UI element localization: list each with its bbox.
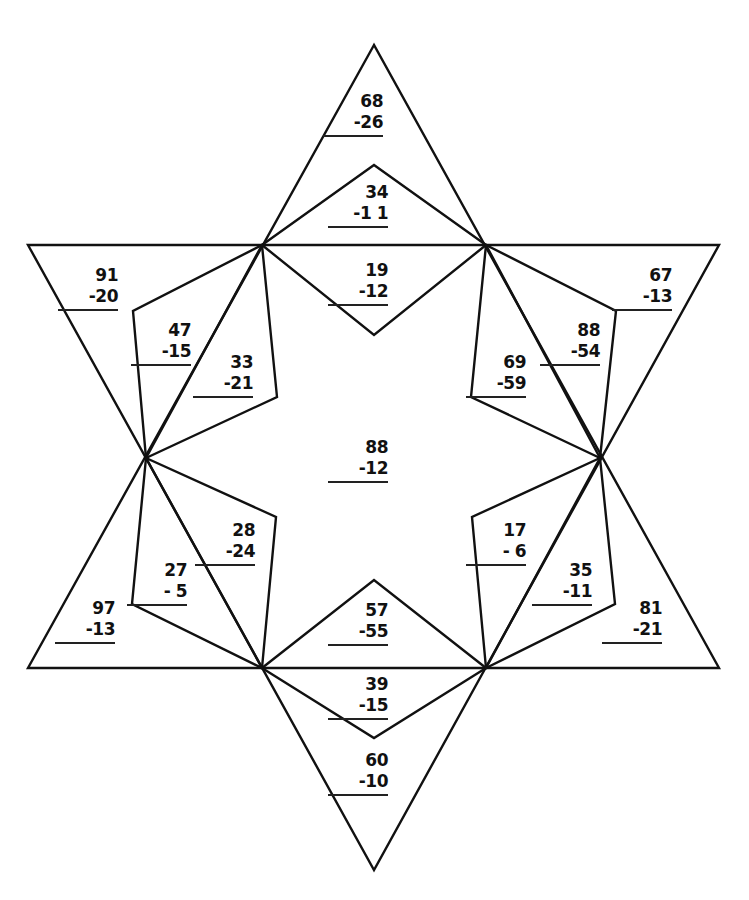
minuend: 34	[328, 182, 388, 203]
problem-lower-left-kite-outer: 27 - 5	[127, 560, 187, 606]
minuend: 81	[602, 598, 662, 619]
problem-center: 88 -12	[328, 437, 388, 483]
subtrahend: -12	[328, 281, 388, 306]
subtrahend: -21	[193, 373, 253, 398]
subtrahend: -59	[466, 373, 526, 398]
problem-bottom-kite-upper: 57 -55	[328, 600, 388, 646]
minuend: 17	[466, 520, 526, 541]
subtrahend: -10	[328, 771, 388, 796]
problem-top-kite-lower: 19 -12	[328, 260, 388, 306]
minuend: 57	[328, 600, 388, 621]
minuend: 67	[612, 265, 672, 286]
problem-upper-right-kite-outer: 88 -54	[540, 320, 600, 366]
minuend: 28	[195, 520, 255, 541]
problem-bottom-kite-lower: 39 -15	[328, 674, 388, 720]
minuend: 88	[328, 437, 388, 458]
minuend: 69	[466, 352, 526, 373]
minuend: 39	[328, 674, 388, 695]
minuend: 68	[323, 91, 383, 112]
problem-lower-left-kite-inner: 28 -24	[195, 520, 255, 566]
subtrahend: - 6	[466, 541, 526, 566]
problem-lower-right-tip: 81 -21	[602, 598, 662, 644]
minuend: 60	[328, 750, 388, 771]
subtrahend: -15	[131, 341, 191, 366]
problem-lower-right-kite-inner: 17 - 6	[466, 520, 526, 566]
subtrahend: -55	[328, 621, 388, 646]
problem-lower-right-kite-outer: 35 -11	[532, 560, 592, 606]
problem-upper-right-tip: 67 -13	[612, 265, 672, 311]
subtrahend: -11	[532, 581, 592, 606]
minuend: 47	[131, 320, 191, 341]
problem-top-kite-upper: 34 -1 1	[328, 182, 388, 228]
worksheet-page: 68 -26 34 -1 1 19 -12 91 -20 47 -15 33 -…	[0, 0, 749, 900]
problem-upper-left-kite-inner: 33 -21	[193, 352, 253, 398]
problem-top-tip: 68 -26	[323, 91, 383, 137]
subtrahend: -54	[540, 341, 600, 366]
subtrahend: -12	[328, 458, 388, 483]
minuend: 91	[58, 265, 118, 286]
subtrahend: -13	[55, 619, 115, 644]
subtrahend: -1 1	[328, 203, 388, 228]
problem-upper-left-tip: 91 -20	[58, 265, 118, 311]
minuend: 88	[540, 320, 600, 341]
subtrahend: -26	[323, 112, 383, 137]
subtrahend: -21	[602, 619, 662, 644]
minuend: 33	[193, 352, 253, 373]
minuend: 19	[328, 260, 388, 281]
minuend: 97	[55, 598, 115, 619]
problem-upper-right-kite-inner: 69 -59	[466, 352, 526, 398]
subtrahend: -13	[612, 286, 672, 311]
problem-bottom-tip: 60 -10	[328, 750, 388, 796]
subtrahend: -20	[58, 286, 118, 311]
subtrahend: -24	[195, 541, 255, 566]
problem-lower-left-tip: 97 -13	[55, 598, 115, 644]
minuend: 27	[127, 560, 187, 581]
subtrahend: - 5	[127, 581, 187, 606]
subtrahend: -15	[328, 695, 388, 720]
minuend: 35	[532, 560, 592, 581]
problem-upper-left-kite-outer: 47 -15	[131, 320, 191, 366]
